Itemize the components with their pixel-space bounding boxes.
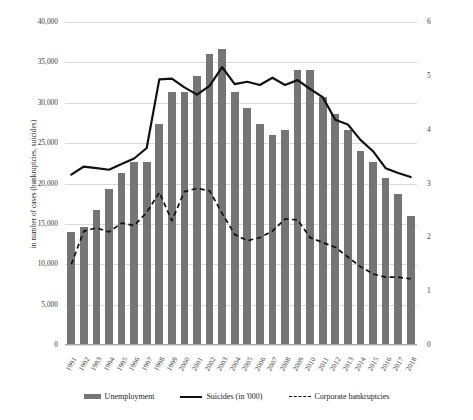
y-axis-right-tick-label: 2 xyxy=(427,232,467,241)
y-axis-left-tick-label: 30,000 xyxy=(12,98,58,107)
y-axis-left-tick-label: 0 xyxy=(12,340,58,349)
line-corporate-bankruptcies xyxy=(71,188,410,278)
legend-item[interactable]: Unemployment xyxy=(84,392,155,401)
y-axis-right-tick-label: 1 xyxy=(427,286,467,295)
legend-label: Suicides (in '000) xyxy=(206,392,262,401)
y-axis-right-tick-label: 0 xyxy=(427,340,467,349)
solid-line-swatch-icon xyxy=(180,396,202,398)
y-axis-right-tick-label: 4 xyxy=(427,125,467,134)
dashed-line-swatch-icon xyxy=(289,396,311,397)
y-axis-left-tick-label: 35,000 xyxy=(12,57,58,66)
y-axis-left-tick-label: 25,000 xyxy=(12,138,58,147)
legend-item[interactable]: Suicides (in '000) xyxy=(180,392,262,401)
y-axis-left-tick-label: 10,000 xyxy=(12,259,58,268)
y-axis-right-tick-label: 5 xyxy=(427,71,467,80)
x-axis-line xyxy=(65,344,417,345)
line-suicides xyxy=(71,67,410,177)
y-axis-left-tick-label: 20,000 xyxy=(12,179,58,188)
y-axis-left-tick-label: 40,000 xyxy=(12,17,58,26)
legend-item[interactable]: Corporate bankruptcies xyxy=(289,392,390,401)
plot-area xyxy=(65,22,417,345)
y-axis-right-tick-label: 6 xyxy=(427,17,467,26)
gridline xyxy=(65,345,417,346)
y-axis-left-tick-label: 5,000 xyxy=(12,300,58,309)
y-axis-right-tick-label: 3 xyxy=(427,179,467,188)
chart-legend: UnemploymentSuicides (in '000)Corporate … xyxy=(0,392,473,401)
y-axis-left-tick-label: 15,000 xyxy=(12,219,58,228)
legend-label: Corporate bankruptcies xyxy=(315,392,390,401)
chart-container: in number of cases (bankruptcies, suicid… xyxy=(0,0,473,420)
line-series-layer xyxy=(65,22,417,345)
bar-swatch-icon xyxy=(84,394,101,399)
legend-label: Unemployment xyxy=(105,392,155,401)
